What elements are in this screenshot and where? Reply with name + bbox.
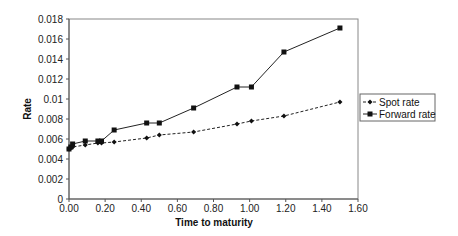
data-point <box>234 85 239 90</box>
data-point <box>99 139 104 144</box>
data-point <box>281 114 286 119</box>
x-axis: 0.000.200.400.600.801.001.201.401.60 <box>59 199 368 214</box>
data-point <box>144 121 149 126</box>
data-point <box>144 136 149 141</box>
data-point <box>249 119 254 124</box>
x-axis-label: Time to maturity <box>175 217 253 228</box>
y-tick-label: 0.014 <box>38 54 63 65</box>
data-point <box>281 50 286 55</box>
data-point <box>83 139 88 144</box>
data-point <box>337 26 342 31</box>
x-tick-label: 1.60 <box>348 203 368 214</box>
x-tick-label: 0.40 <box>132 203 152 214</box>
data-point <box>112 128 117 133</box>
y-tick-label: 0.01 <box>44 94 64 105</box>
data-point <box>157 133 162 138</box>
data-point <box>70 142 75 147</box>
x-tick-label: 1.40 <box>312 203 332 214</box>
y-axis-label: Rate <box>22 98 33 120</box>
data-point <box>191 130 196 135</box>
plot-area <box>69 19 358 199</box>
x-tick-label: 0.00 <box>59 203 79 214</box>
data-point <box>249 85 254 90</box>
series-line <box>69 28 340 149</box>
series-forward-rate <box>67 26 343 152</box>
plot-border <box>69 19 358 199</box>
data-point <box>337 100 342 105</box>
x-tick-label: 1.00 <box>240 203 260 214</box>
y-tick-label: 0.002 <box>38 174 63 185</box>
y-axis: 00.0020.0040.0060.0080.010.0120.0140.016… <box>38 14 69 205</box>
x-tick-label: 1.20 <box>276 203 296 214</box>
y-tick-label: 0.012 <box>38 74 63 85</box>
x-tick-label: 0.20 <box>95 203 115 214</box>
series-spot-rate <box>67 100 343 152</box>
x-tick-label: 0.60 <box>168 203 188 214</box>
y-tick-label: 0.004 <box>38 154 63 165</box>
data-point <box>191 106 196 111</box>
series-layer <box>67 26 343 152</box>
data-point <box>112 140 117 145</box>
data-point <box>234 122 239 127</box>
y-tick-label: 0.018 <box>38 14 63 25</box>
legend-label: Forward rate <box>379 109 436 120</box>
x-tick-label: 0.80 <box>204 203 224 214</box>
series-line <box>69 102 340 149</box>
data-point <box>157 121 162 126</box>
y-tick-label: 0.006 <box>38 134 63 145</box>
legend-label: Spot rate <box>379 97 420 108</box>
legend: Spot rateForward rate <box>360 94 436 121</box>
y-tick-label: 0.008 <box>38 114 63 125</box>
line-chart: 00.0020.0040.0060.0080.010.0120.0140.016… <box>0 0 458 236</box>
legend-marker-icon <box>368 112 373 117</box>
y-tick-label: 0.016 <box>38 34 63 45</box>
